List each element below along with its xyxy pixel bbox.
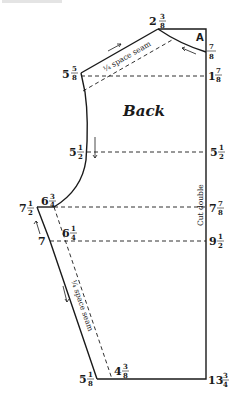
measurement-shoulder-left: 5 5 8 <box>62 64 78 82</box>
svg-text:5: 5 <box>69 146 77 159</box>
dashed-guides <box>50 40 206 379</box>
svg-text:1: 1 <box>28 199 33 208</box>
svg-text:2: 2 <box>78 152 83 161</box>
fold-note: Cut double <box>196 184 205 226</box>
svg-text:6: 6 <box>41 195 49 208</box>
svg-text:3: 3 <box>223 371 228 380</box>
svg-text:2: 2 <box>28 208 33 217</box>
svg-text:8: 8 <box>216 75 221 84</box>
arrow-up-icon <box>34 221 40 234</box>
svg-text:2: 2 <box>219 152 224 161</box>
measurement-waist-left: 7 <box>38 235 46 248</box>
svg-text:13: 13 <box>208 374 223 387</box>
svg-text:5: 5 <box>210 146 218 159</box>
svg-text:8: 8 <box>72 73 77 82</box>
pattern-diagram: Back A ¼ space seam ¼ space seam Cut dou… <box>0 0 244 401</box>
svg-text:7: 7 <box>19 202 27 215</box>
measurement-shoulder-right: 1 7 8 <box>208 66 222 84</box>
svg-text:3: 3 <box>123 362 128 371</box>
svg-text:5: 5 <box>72 64 77 73</box>
shoulder-line <box>81 29 158 73</box>
measurement-neck-drop: 7 8 <box>207 42 216 61</box>
svg-text:7: 7 <box>209 42 214 51</box>
svg-text:1: 1 <box>218 232 223 241</box>
svg-text:2: 2 <box>218 241 223 250</box>
svg-text:8: 8 <box>160 21 165 30</box>
svg-text:4: 4 <box>50 200 55 209</box>
svg-text:1: 1 <box>88 370 93 379</box>
svg-text:4: 4 <box>114 365 122 378</box>
svg-text:7: 7 <box>216 66 221 75</box>
armhole-curve <box>54 73 87 207</box>
svg-text:8: 8 <box>218 208 223 217</box>
svg-text:7: 7 <box>209 202 217 215</box>
svg-text:1: 1 <box>219 143 224 152</box>
svg-text:9: 9 <box>209 235 217 248</box>
measurement-hem-inner: 4 3 8 <box>114 362 129 380</box>
svg-text:4: 4 <box>223 380 228 389</box>
svg-text:5: 5 <box>79 373 87 386</box>
svg-text:7: 7 <box>38 235 46 248</box>
fold-and-hem-edge <box>97 29 206 379</box>
corner-label: A <box>196 32 204 43</box>
measurement-underarm-outer: 7 1 2 <box>19 199 34 217</box>
measurement-underarm-right: 7 7 8 <box>209 199 224 217</box>
arrow-down-icon <box>93 137 97 158</box>
svg-text:1: 1 <box>208 70 216 83</box>
piece-title: Back <box>122 102 165 120</box>
measurement-hem-right: 13 3 4 <box>208 371 229 389</box>
measurement-neck-top: 2 3 8 <box>149 12 166 30</box>
svg-text:5: 5 <box>62 68 70 81</box>
shoulder-seam-allowance <box>83 40 172 91</box>
measurement-underarm-inner: 6 3 4 <box>41 192 56 209</box>
seam-note-side: ¼ space seam <box>69 279 95 333</box>
svg-text:1: 1 <box>71 224 76 233</box>
svg-text:1: 1 <box>78 143 83 152</box>
svg-text:4: 4 <box>71 233 76 242</box>
measurement-waist-right: 9 1 2 <box>209 232 224 250</box>
arrow-right-icon <box>108 44 121 51</box>
pattern-outline <box>37 29 206 379</box>
measurement-armhole-left: 5 1 2 <box>69 143 84 161</box>
measurement-hem-left: 5 1 8 <box>79 370 94 388</box>
measurement-armhole-right: 5 1 2 <box>210 143 225 161</box>
svg-text:7: 7 <box>218 199 223 208</box>
svg-text:3: 3 <box>160 12 165 21</box>
svg-text:2: 2 <box>149 15 157 28</box>
svg-text:8: 8 <box>123 371 128 380</box>
measurement-waist-inner: 6 1 4 <box>62 224 77 242</box>
svg-text:8: 8 <box>88 379 93 388</box>
svg-text:8: 8 <box>209 52 214 61</box>
svg-text:6: 6 <box>62 227 70 240</box>
